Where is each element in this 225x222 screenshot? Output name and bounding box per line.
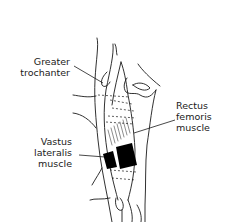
label-greater-trochanter: Greater trochanter [4,56,70,78]
lateral-thigh-outline [95,38,112,222]
medial-thigh-outline [145,90,156,222]
greater-trochanter-leader [74,66,103,83]
vastus-lateralis-electrode [103,151,117,169]
rectus-femoris-leader [134,120,175,133]
thigh-diagram: Greater trochanter Rectus femoris muscle… [0,0,225,222]
vastus-lateralis-leader [79,155,105,157]
rectus-femoris-electrode [116,143,137,169]
label-rectus-femoris: Rectus femoris muscle [176,100,212,133]
pelvis-outline [124,78,156,97]
label-vastus-lateralis: Vastus lateralis muscle [8,136,72,169]
trochanter-outline [101,72,110,86]
